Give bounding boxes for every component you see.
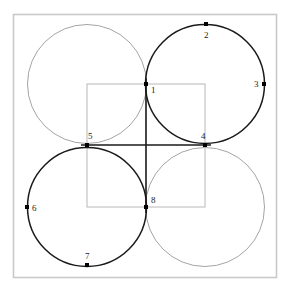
point-marker-8 bbox=[144, 205, 148, 209]
point-label-8: 8 bbox=[151, 195, 156, 205]
point-label-6: 6 bbox=[32, 203, 37, 213]
point-label-3: 3 bbox=[254, 79, 259, 89]
point-label-7: 7 bbox=[85, 251, 90, 261]
point-label-2: 2 bbox=[204, 30, 209, 40]
geometry-diagram: 12345678 bbox=[0, 0, 287, 294]
point-marker-1 bbox=[144, 82, 148, 86]
figure-canvas: 12345678 bbox=[0, 0, 287, 294]
point-marker-6 bbox=[25, 205, 29, 209]
point-marker-5 bbox=[85, 143, 89, 147]
point-marker-7 bbox=[85, 263, 89, 267]
point-marker-3 bbox=[262, 82, 266, 86]
point-label-1: 1 bbox=[151, 85, 156, 95]
point-marker-4 bbox=[203, 143, 207, 147]
point-marker-2 bbox=[204, 22, 208, 26]
point-label-4: 4 bbox=[201, 131, 206, 141]
point-label-5: 5 bbox=[88, 131, 93, 141]
